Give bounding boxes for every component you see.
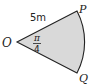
vertex-label-o: O [2,36,12,50]
angle-numerator: π [33,33,41,43]
sector-svg: 5m π 4 O P Q [0,0,93,84]
vertex-label-p: P [78,3,87,16]
angle-denominator: 4 [34,44,40,54]
sector-shape [17,11,85,73]
vertex-label-q: Q [79,72,88,84]
sector-diagram: 5m π 4 O P Q [0,0,93,84]
radius-label: 5m [30,12,46,23]
